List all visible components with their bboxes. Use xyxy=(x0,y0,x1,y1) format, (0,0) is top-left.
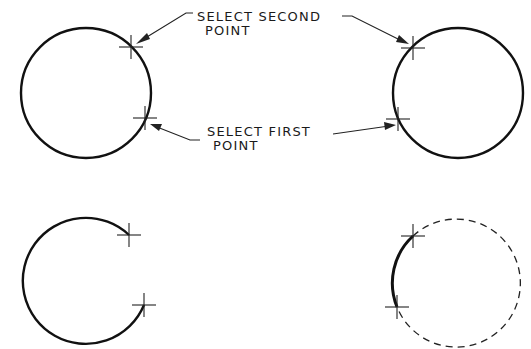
figure-top-right xyxy=(386,28,523,158)
label-select-first-point: SELECT FIRST POINT xyxy=(207,124,311,153)
label-line-1: SELECT FIRST xyxy=(207,124,311,139)
leader-line-right xyxy=(342,16,402,41)
diagram-canvas: SELECT SECOND POINT SELECT FIRST POINT xyxy=(0,0,531,349)
arrowhead-icon xyxy=(396,35,409,44)
figure-bottom-right xyxy=(385,219,520,347)
leader-line-right xyxy=(333,126,389,134)
figure-bottom-left xyxy=(23,218,156,344)
label-line-2: POINT xyxy=(205,23,251,38)
arrowhead-icon xyxy=(384,122,396,130)
cross-marker xyxy=(385,295,409,319)
label-line-1: SELECT SECOND xyxy=(197,9,321,24)
label-select-second-point: SELECT SECOND POINT xyxy=(197,9,321,38)
leader-line-left xyxy=(157,127,200,140)
arrowhead-icon xyxy=(150,124,162,131)
arc-kept xyxy=(392,236,413,307)
cross-marker xyxy=(132,293,156,317)
leader-line-left xyxy=(142,13,193,40)
arc-dashed-remainder xyxy=(397,219,520,347)
cross-marker xyxy=(117,223,141,247)
figure-top-left xyxy=(21,28,157,158)
label-line-2: POINT xyxy=(213,138,259,153)
arc-remaining xyxy=(23,218,144,344)
arrowhead-icon xyxy=(136,33,150,44)
